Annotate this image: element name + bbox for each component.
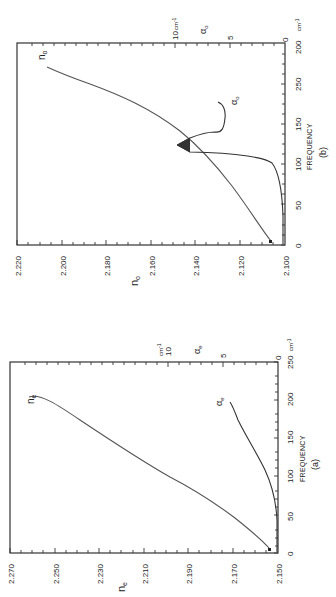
svg-text:100: 100 <box>286 469 295 483</box>
n-e-start-marker <box>268 548 271 551</box>
svg-text:2.180: 2.180 <box>103 255 112 276</box>
n-o-curve <box>47 67 271 241</box>
n-e-curve-label: ne <box>25 394 37 404</box>
svg-text:10: 10 <box>164 347 173 356</box>
panel-b-freq-axis-label: FREQUENCY <box>306 123 314 170</box>
panel-b-alpha-ticks <box>32 43 274 48</box>
svg-text:100: 100 <box>294 157 303 171</box>
alpha-e-curve-label: αe <box>214 397 225 406</box>
n-o-start-marker <box>269 240 272 243</box>
svg-text:2.150: 2.150 <box>275 563 284 584</box>
svg-text:200: 200 <box>294 40 303 54</box>
panel-a-freq-axis-label: FREQUENCY <box>299 435 307 482</box>
svg-text:2.200: 2.200 <box>59 255 68 276</box>
svg-text:2.160: 2.160 <box>148 255 157 276</box>
figure: no αo 2.220 2.200 2.180 2.160 2.140 2.12… <box>0 0 336 597</box>
panel-b-n-ticks <box>17 240 273 245</box>
panel-a-frame <box>10 362 278 553</box>
svg-text:2.170: 2.170 <box>230 563 239 584</box>
svg-text:0: 0 <box>286 551 295 556</box>
svg-text:5: 5 <box>226 35 235 40</box>
panel-a-n-tick-labels: 2.270 2.250 2.230 2.210 2.190 2.170 2.15… <box>7 563 284 584</box>
alpha-o-peak <box>177 138 190 152</box>
svg-text:2.270: 2.270 <box>7 563 16 584</box>
svg-text:2.100: 2.100 <box>282 255 291 276</box>
panel-b-alpha-tick-labels: 0 5 10cm-1 <box>171 17 290 42</box>
svg-text:250: 250 <box>294 77 303 91</box>
svg-text:0: 0 <box>294 243 303 248</box>
svg-text:50: 50 <box>294 201 303 210</box>
n-o-curve-label: no <box>36 50 48 60</box>
svg-text:2.220: 2.220 <box>14 255 23 276</box>
svg-text:150: 150 <box>294 117 303 131</box>
panel-a-n-axis-label: ne <box>115 582 128 592</box>
panel-a: ne αe 2.270 2.250 2.230 2.210 2.190 2.17… <box>7 338 320 592</box>
panel-b-frame <box>17 43 285 245</box>
svg-text:0: 0 <box>281 37 290 42</box>
panel-a-alpha-axis-label: αe <box>192 345 203 354</box>
alpha-e-curve <box>230 402 277 552</box>
alpha-o-curve-label: αo <box>229 96 240 105</box>
panel-b-n-tick-labels: 2.220 2.200 2.180 2.160 2.140 2.120 2.10… <box>14 255 291 276</box>
svg-text:250: 250 <box>286 355 295 369</box>
panel-b: no αo 2.220 2.200 2.180 2.160 2.140 2.12… <box>14 17 328 286</box>
panel-a-alpha-unit: cm-1 <box>156 343 164 356</box>
n-e-curve <box>29 396 269 548</box>
panel-b-caption: (b) <box>318 147 328 158</box>
panel-a-n-ticks <box>10 548 266 553</box>
panel-a-freq-unit: cm-1 <box>286 338 294 351</box>
panel-b-freq-tick-labels: 0 50 100 150 250 200 cm-1 <box>294 18 303 248</box>
svg-text:2.120: 2.120 <box>237 255 246 276</box>
panel-b-n-axis-label: no <box>128 276 141 286</box>
svg-text:2.230: 2.230 <box>96 563 105 584</box>
svg-text:0: 0 <box>274 355 283 360</box>
svg-text:5: 5 <box>219 353 228 358</box>
panel-b-alpha-axis-label: αo <box>198 25 209 34</box>
panel-a-alpha-tick-labels: 0 5 10 cm-1 <box>156 343 283 360</box>
svg-text:2.190: 2.190 <box>185 563 194 584</box>
svg-text:200: 200 <box>286 392 295 406</box>
panel-a-caption: (a) <box>310 459 320 470</box>
svg-text:2.210: 2.210 <box>141 563 150 584</box>
alpha-o-curve <box>178 102 283 244</box>
svg-text:2.250: 2.250 <box>52 563 61 584</box>
panel-a-alpha-ticks <box>25 362 267 367</box>
panel-b-alpha-10: 10cm-1 <box>171 17 180 40</box>
panel-b-freq-unit: cm-1 <box>294 18 302 31</box>
svg-text:50: 50 <box>286 512 295 521</box>
svg-text:150: 150 <box>286 430 295 444</box>
svg-text:2.140: 2.140 <box>192 255 201 276</box>
panel-a-freq-tick-labels: 0 50 100 150 200 250 cm-1 <box>286 338 295 556</box>
